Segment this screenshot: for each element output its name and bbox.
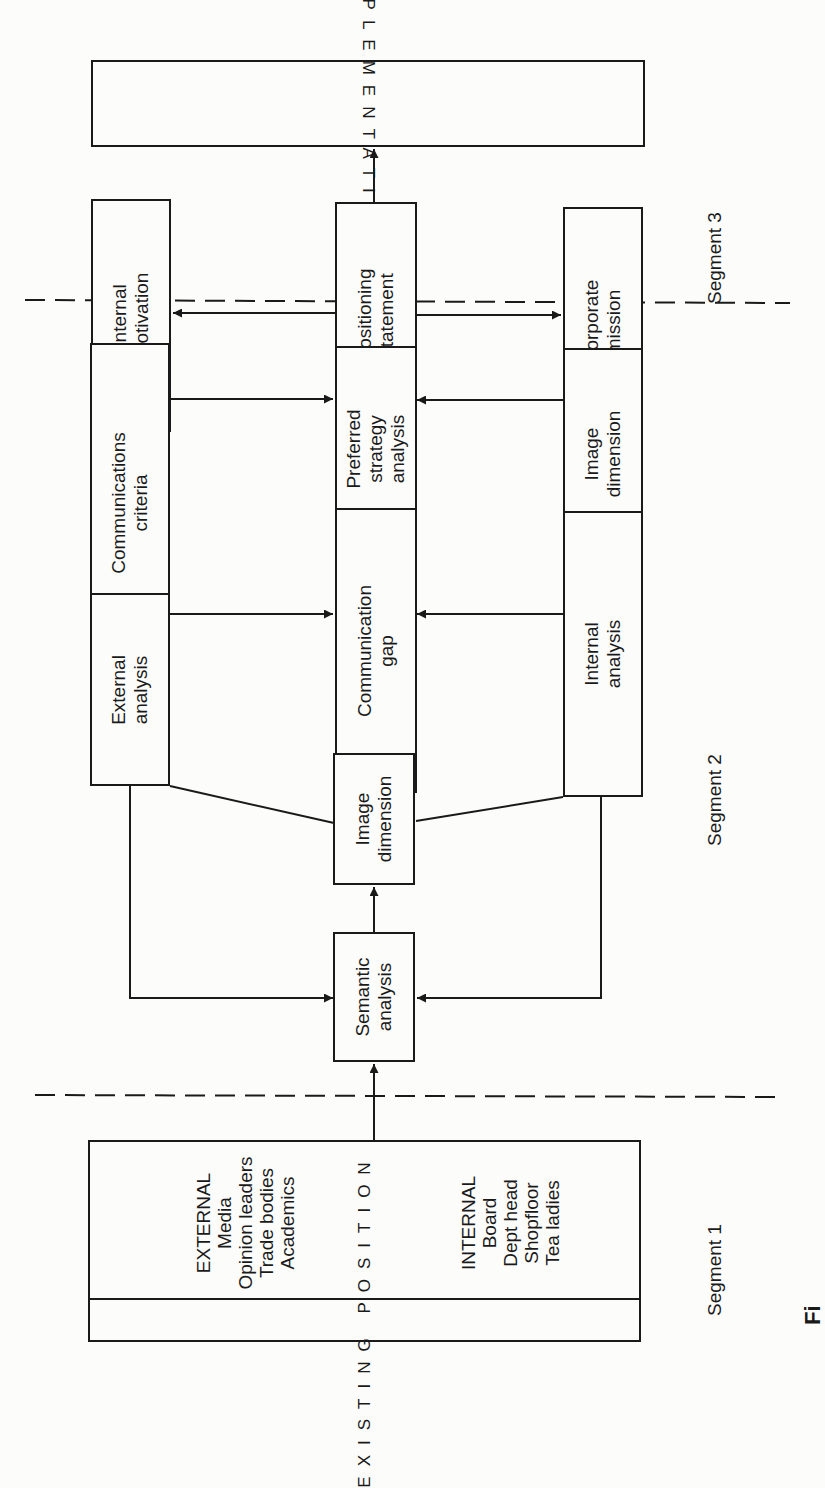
preferred-strategy-line-3: analysis [387, 409, 409, 488]
internal-item: Tea ladies [542, 1176, 563, 1270]
communications-criteria-line-2: criteria [130, 432, 152, 574]
internal-analysis-line-2: analysis [603, 620, 625, 689]
internal-item: Dept head [500, 1176, 521, 1270]
segment-1-label: Segment 1 [704, 1224, 726, 1316]
semantic-analysis-line-2: analysis [374, 957, 396, 1036]
image-dimension-top-line-1: Image [581, 411, 603, 498]
internal-item: Shopfloor [521, 1176, 542, 1270]
image-dimension-mid-line-1: Image [352, 776, 374, 863]
segment-divider-1 [35, 1095, 775, 1097]
communications-criteria-line-1: Communications [108, 432, 130, 574]
external-item: Academics [277, 1156, 298, 1289]
communication-gap-box: Communication gap [335, 508, 417, 793]
external-heading: EXTERNAL [193, 1156, 214, 1289]
image-dimension-top-line-2: dimension [603, 411, 625, 498]
image-dimension-mid-line-2: dimension [374, 776, 396, 863]
implementation-box: IMPLEMENTATION [91, 60, 645, 147]
communication-gap-line-1: Communication [354, 585, 376, 717]
external-analysis-line-2: analysis [130, 655, 152, 725]
existing-position-label-band: EXISTING POSITION [90, 1298, 639, 1340]
existing-position-internal-group: INTERNAL Board Dept head Shopfloor Tea l… [385, 1148, 635, 1298]
external-analysis-box: External analysis [90, 593, 170, 786]
figure-caption-fragment: Fi [800, 1305, 825, 1325]
internal-item: Board [479, 1176, 500, 1270]
preferred-strategy-line-1: Preferred [343, 409, 365, 488]
external-analysis-line-1: External [108, 655, 130, 725]
external-item: Trade bodies [256, 1156, 277, 1289]
internal-analysis-box: Internal analysis [563, 511, 643, 797]
internal-analysis-line-1: Internal [581, 620, 603, 689]
internal-heading: INTERNAL [458, 1176, 479, 1270]
preferred-strategy-line-2: strategy [365, 409, 387, 488]
existing-position-label: EXISTING POSITION [354, 1152, 376, 1487]
external-item: Media [214, 1156, 235, 1289]
segment-2-label: Segment 2 [704, 754, 726, 846]
semantic-analysis-box: Semantic analysis [333, 932, 415, 1062]
segment-3-label: Segment 3 [704, 212, 726, 304]
semantic-analysis-line-1: Semantic [352, 957, 374, 1036]
existing-position-external-group: EXTERNAL Media Opinion leaders Trade bod… [120, 1148, 370, 1298]
existing-position-box: EXTERNAL Media Opinion leaders Trade bod… [88, 1140, 641, 1342]
communication-gap-line-2: gap [376, 585, 398, 717]
image-dimension-mid-box: Image dimension [333, 753, 415, 885]
external-item: Opinion leaders [235, 1156, 256, 1289]
